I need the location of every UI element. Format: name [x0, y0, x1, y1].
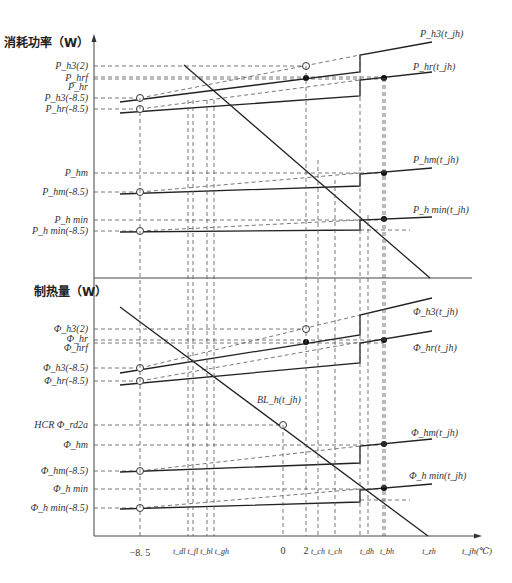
curve-label-phi-hm: Φ_hm(t_jh): [411, 427, 459, 439]
y-label-phi-hrf: Φ_hrf: [64, 342, 90, 353]
curve-label-p-hm: P_hm(t_jh): [412, 154, 459, 166]
x-tick-0: 0: [281, 545, 286, 556]
x-tick-tch-1: t_ch: [311, 547, 325, 556]
top-y-labels: P_h3(2) P_hrf P_hr P_h3(-8.5) P_hr(-8.5)…: [31, 60, 89, 237]
x-tick-tdl-tfl-tbl-tgh: t_dl t_fl t_bl t_gh: [173, 547, 229, 556]
y-label-phi-h3-minus8_5: Φ_h3(-8.5): [43, 362, 89, 374]
x-tick-tzh: t_zh: [422, 547, 435, 556]
bottom-curve-labels: Φ_h3(t_jh) Φ_hr(t_jh) Φ_hm(t_jh) Φ_h min…: [257, 306, 467, 482]
y-label-p-hr-minus8_5: P_hr(-8.5): [45, 103, 89, 115]
curve-label-p-hmin: P_h min(t_jh): [412, 204, 469, 216]
top-y-axis-arrow-icon: [92, 34, 97, 42]
x-axis-arrow-icon: [474, 534, 482, 539]
y-label-phi-hm: Φ_hm: [63, 439, 88, 450]
curve-label-phi-hmin: Φ_h min(t_jh): [409, 470, 467, 482]
y-label-phi-hr-minus8_5: Φ_hr(-8.5): [44, 375, 89, 387]
x-axis-ticks: −8. 5 t_dl t_fl t_bl t_gh 0 2 t_ch t_ch …: [130, 545, 492, 558]
x-axis-label: t_jh(℃): [462, 546, 492, 556]
bottom-panel-title: 制热量（W）: [34, 284, 107, 299]
y-label-p-hm: P_hm: [64, 167, 88, 178]
y-label-phi-hmin-minus8_5: Φ_h min(-8.5): [30, 502, 88, 514]
y-label-phi-hmin: Φ_h min: [53, 483, 88, 494]
curve-label-p-hr: P_hr(t_jh): [412, 61, 456, 73]
curve-label-bl-h: BL_h(t_jh): [257, 394, 302, 406]
curve-label-phi-hr: Φ_hr(t_jh): [413, 342, 457, 354]
y-label-p-hmin: P_h min: [53, 214, 88, 225]
top-curve-labels: P_h3(t_jh) P_hr(t_jh) P_hm(t_jh) P_h min…: [412, 28, 469, 216]
bottom-panel: [94, 278, 482, 539]
y-label-p-hm-minus8_5: P_hm(-8.5): [41, 186, 88, 198]
x-tick-2: 2: [304, 545, 309, 556]
bottom-y-labels: Φ_h3(2) Φ_hr Φ_hrf Φ_h3(-8.5) Φ_hr(-8.5)…: [30, 323, 89, 514]
y-label-phi-hm-minus8_5: Φ_hm(-8.5): [41, 465, 89, 477]
y-label-p-h3-2: P_h3(2): [54, 60, 88, 72]
y-label-p-hmin-minus8_5: P_h min(-8.5): [31, 225, 89, 237]
curve-label-phi-h3: Φ_h3(t_jh): [413, 306, 458, 318]
x-tick-tdh: t_dh: [360, 547, 374, 556]
y-label-p-hr: P_hr: [67, 81, 88, 92]
top-panel-title: 消耗功率（W）: [4, 35, 89, 50]
x-tick-tbh: t_bh: [380, 547, 394, 556]
x-tick-minus8_5: −8. 5: [130, 547, 151, 558]
curve-label-p-h3: P_h3(t_jh): [419, 28, 464, 40]
diagram-canvas: 消耗功率（W） 制热量（W） P_h3(2) P_hrf P_hr P_h3(-…: [0, 0, 512, 583]
x-tick-tch-2: t_ch: [328, 547, 342, 556]
y-label-hcr-phi-rd2a: HCR Φ_rd2a: [33, 419, 88, 430]
